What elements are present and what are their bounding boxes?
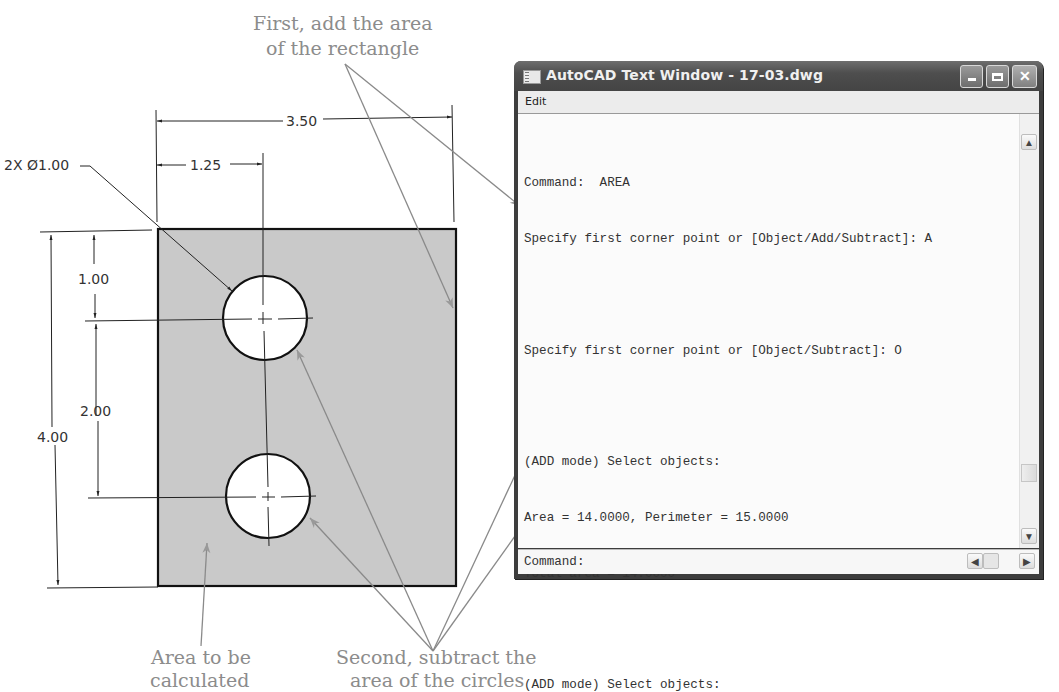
callout-area-line1: Area to be: [150, 646, 251, 668]
scroll-left-button[interactable]: ◀: [967, 553, 983, 569]
history-line: (ADD mode) Select objects:: [524, 453, 1015, 472]
horizontal-scroll-thumb[interactable]: [983, 553, 999, 569]
scroll-up-button[interactable]: ▲: [1021, 134, 1037, 150]
minimize-icon: [968, 78, 976, 81]
history-lines: Command: AREA Specify first corner point…: [524, 137, 1015, 692]
window-title: AutoCAD Text Window - 17-03.dwg: [546, 67, 823, 83]
history-line: Specify first corner point or [Object/Su…: [524, 342, 1015, 361]
menu-bar: Edit: [518, 91, 1039, 114]
dim-height: 4.00: [37, 429, 68, 445]
minimize-button[interactable]: [960, 65, 983, 88]
part-rectangle: [158, 229, 456, 586]
dim-hole-spacing: 2.00: [80, 403, 111, 419]
dim-hole-offset-x: 1.25: [190, 157, 221, 173]
app-icon: [523, 70, 541, 84]
close-button[interactable]: ✕: [1012, 65, 1037, 88]
autocad-text-window: AutoCAD Text Window - 17-03.dwg ✕ Edit C…: [514, 61, 1043, 579]
chevron-up-icon: ▲: [1024, 137, 1034, 148]
menu-edit[interactable]: Edit: [525, 95, 546, 108]
callout-area-line2: calculated: [150, 669, 249, 691]
hole-top: [223, 276, 307, 360]
history-line: ​: [524, 286, 1015, 305]
history-line: Area = 14.0000, Perimeter = 15.0000: [524, 509, 1015, 528]
chevron-left-icon: ◀: [971, 556, 979, 567]
chevron-down-icon: ▼: [1024, 531, 1034, 542]
command-history[interactable]: Command: AREA Specify first corner point…: [518, 114, 1039, 548]
scroll-right-button[interactable]: ▶: [1019, 553, 1035, 569]
callout-second-line1: Second, subtract the: [336, 646, 536, 668]
history-line: Specify first corner point or [Object/Ad…: [524, 230, 1015, 249]
history-line: ​: [524, 620, 1015, 639]
scroll-thumb[interactable]: [1021, 464, 1037, 482]
history-line: Command: AREA: [524, 174, 1015, 193]
command-prompt: Command:: [524, 555, 584, 569]
dim-hole-note: 2X Ø1.00: [4, 157, 69, 173]
history-line: (ADD mode) Select objects:: [524, 676, 1015, 692]
dim-width: 3.50: [286, 113, 317, 129]
title-bar[interactable]: AutoCAD Text Window - 17-03.dwg ✕: [514, 61, 1043, 91]
scroll-down-button[interactable]: ▼: [1021, 528, 1037, 544]
maximize-button[interactable]: [986, 65, 1009, 88]
history-line: ​: [524, 397, 1015, 416]
command-line[interactable]: Command: ◀ ▶: [518, 549, 1039, 574]
callout-first-line1: First, add the area: [253, 12, 433, 34]
dim-hole-offset-y: 1.00: [78, 271, 109, 287]
vertical-scrollbar[interactable]: ▲ ▼: [1019, 114, 1039, 548]
maximize-icon: [992, 73, 1003, 81]
callout-second-line2: area of the circles: [350, 669, 524, 691]
chevron-right-icon: ▶: [1023, 556, 1031, 567]
callout-first-line2: of the rectangle: [266, 37, 419, 59]
close-icon: ✕: [1019, 68, 1031, 84]
